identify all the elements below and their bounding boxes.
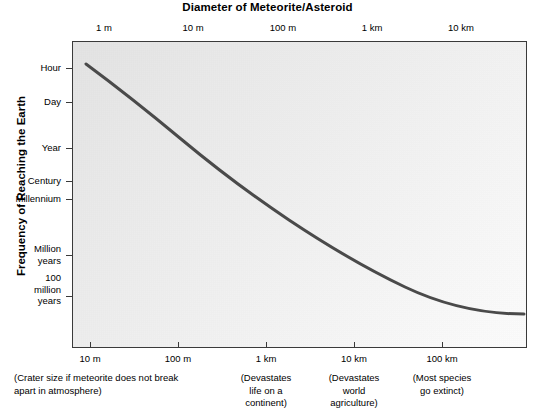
bottom-tick-5	[442, 342, 443, 347]
bottom-axis-label-10km: 10 km	[341, 353, 367, 364]
y-tick-million	[66, 255, 72, 256]
annotation-extinction: (Most species go extinct)	[413, 372, 472, 397]
bottom-axis-label-100m: 100 m	[165, 353, 191, 364]
y-axis-label-100m-line2: million	[34, 284, 61, 296]
y-axis-label-year: Year	[42, 142, 61, 154]
y-axis-label-100-million-years: 100 million years	[34, 272, 61, 307]
frequency-curve	[73, 42, 527, 348]
plot-area	[72, 41, 527, 348]
bottom-axis-label-1km: 1 km	[256, 353, 277, 364]
page-title: Diameter of Meteorite/Asteroid	[0, 1, 535, 13]
top-axis-label-1m: 1 m	[96, 22, 112, 33]
annotation-crater-size: (Crater size if meteorite does not break…	[14, 372, 178, 397]
y-tick-100-million	[66, 296, 72, 297]
annotation-crater-line1: (Crater size if meteorite does not break	[14, 372, 178, 385]
bottom-tick-1	[90, 342, 91, 347]
y-tick-hour	[66, 68, 72, 69]
y-axis-title: Frequency of Reaching the Earth	[15, 71, 27, 301]
y-axis-label-million-years: Million years	[34, 243, 61, 266]
annotation-extinct-line1: (Most species	[413, 372, 472, 385]
y-axis-label-hour: Hour	[40, 62, 61, 74]
top-axis-label-10km: 10 km	[448, 22, 474, 33]
annotation-extinct-line2: go extinct)	[413, 385, 472, 398]
bottom-axis-label-10m: 10 m	[79, 353, 100, 364]
annotation-agriculture-line1: (Devastates	[329, 372, 380, 385]
y-axis-label-millennium: Millennium	[16, 193, 61, 205]
y-axis-label-day: Day	[44, 96, 61, 108]
y-axis-label-100m-line1: 100	[34, 272, 61, 284]
annotation-agriculture: (Devastates world agriculture)	[329, 372, 380, 410]
y-axis-label-100m-line3: years	[34, 295, 61, 307]
y-tick-year	[66, 148, 72, 149]
y-axis-label-century: Century	[28, 175, 61, 187]
bottom-axis-label-100km: 100 km	[426, 353, 457, 364]
annotation-continent-line1: (Devastates	[241, 372, 292, 385]
bottom-tick-3	[266, 342, 267, 347]
bottom-tick-2	[178, 342, 179, 347]
top-axis-label-100m: 100 m	[270, 22, 296, 33]
bottom-tick-4	[354, 342, 355, 347]
annotation-continent-line2: life on a	[241, 385, 292, 398]
annotation-agriculture-line2: world	[329, 385, 380, 398]
annotation-continent: (Devastates life on a continent)	[241, 372, 292, 410]
top-axis-label-1km: 1 km	[362, 22, 383, 33]
annotation-agriculture-line3: agriculture)	[329, 397, 380, 410]
y-axis-label-million-line1: Million	[34, 243, 61, 255]
annotation-crater-line2: apart in atmosphere)	[14, 385, 178, 398]
y-tick-millennium	[66, 199, 72, 200]
y-tick-century	[66, 181, 72, 182]
impact-frequency-chart: Diameter of Meteorite/Asteroid Frequency…	[0, 0, 535, 413]
y-axis-label-million-line2: years	[34, 255, 61, 267]
top-axis-label-10m: 10 m	[182, 22, 203, 33]
annotation-continent-line3: continent)	[241, 397, 292, 410]
y-tick-day	[66, 102, 72, 103]
